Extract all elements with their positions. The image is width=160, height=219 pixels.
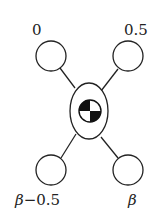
node-label-top-left: 0 [32,23,42,38]
node-label-top-right: 0.5 [124,23,148,38]
node-top-right [113,41,143,71]
beta-symbol: β [128,191,137,209]
node-bottom-right [113,155,143,185]
node-bottom-left [36,155,66,185]
center-of-mass-icon [79,100,101,122]
node-label-bottom-right: β [128,193,137,208]
node-top-left [36,41,66,71]
node-label-bottom-left: β−0.5 [15,193,60,208]
link-bottom-left [61,134,76,158]
link-bottom-right [101,137,118,158]
beta-symbol: β [15,191,24,209]
link-top-right [101,69,118,91]
link-top-left [60,68,75,88]
diagram: 0 0.5 β−0.5 β [0,0,160,219]
label-offset: −0.5 [24,191,60,209]
